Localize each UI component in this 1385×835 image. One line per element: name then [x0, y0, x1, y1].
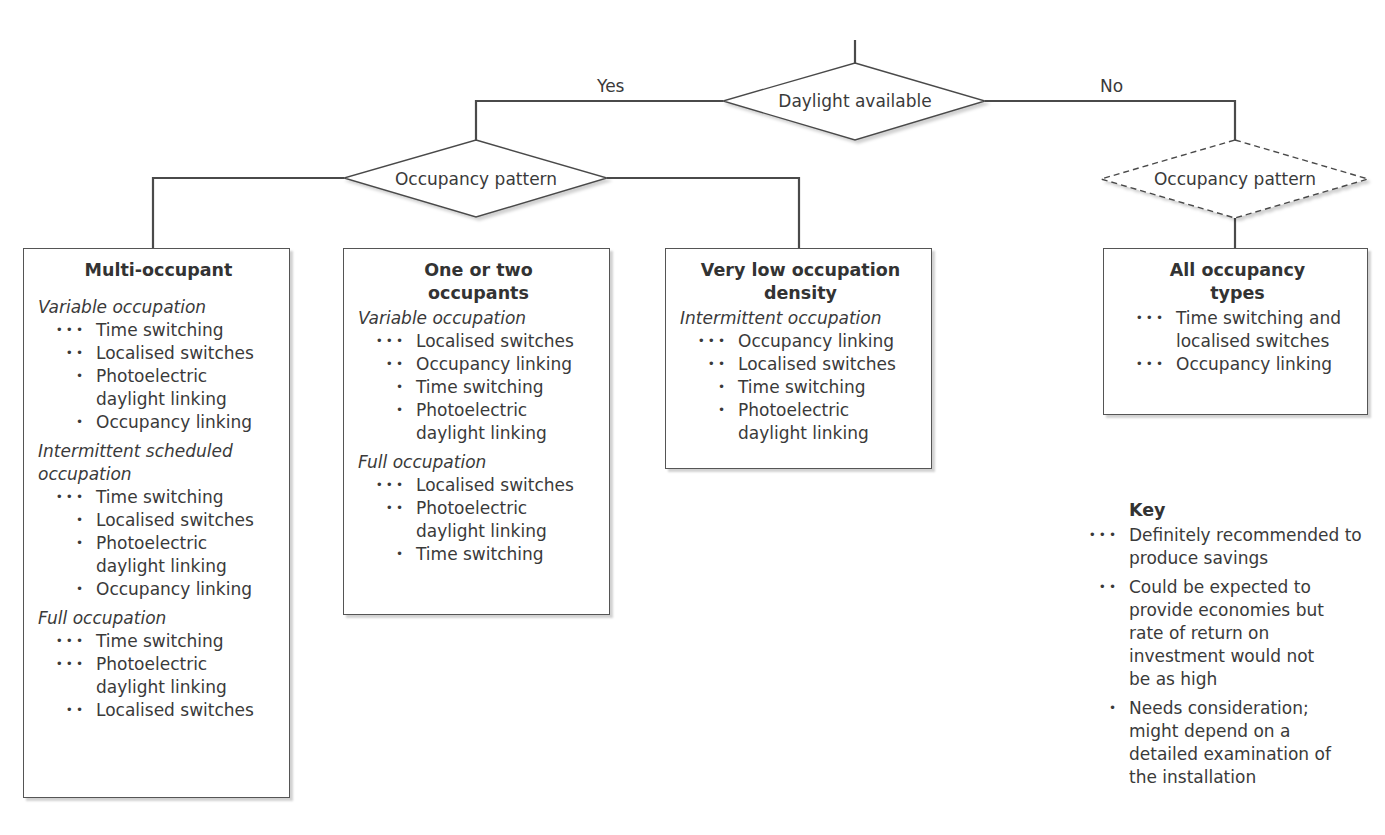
no-branch-label: No — [1100, 76, 1123, 96]
list-item: ••Localised switches — [680, 353, 921, 376]
list-item: •••Localised switches — [358, 474, 599, 497]
rating-dots-icon: •• — [38, 699, 96, 722]
list-item: •••Time switching — [38, 319, 279, 342]
list-item: ••Localised switches — [38, 342, 279, 365]
rating-dots-icon: ••• — [358, 474, 416, 497]
list-item: ••Occupancy linking — [358, 353, 599, 376]
rating-dots-icon: •• — [38, 342, 96, 365]
box-multi-occupant: Multi-occupant Variable occupation •••Ti… — [23, 248, 290, 798]
list-item: ••Photoelectric daylight linking — [358, 497, 599, 543]
list-item: •••Photoelectric daylight linking — [38, 653, 279, 699]
box-title: Very low occupation density — [680, 259, 921, 305]
list-item: •Photoelectric daylight linking — [38, 365, 279, 411]
rating-dots-icon: • — [38, 509, 96, 532]
section-title: Intermittent scheduled occupation — [38, 440, 279, 486]
rating-dots-icon: ••• — [358, 330, 416, 353]
rating-dots-icon: ••• — [38, 486, 96, 509]
list-item: •••Time switching and localised switches — [1118, 307, 1357, 353]
box-very-low-occupation-density: Very low occupation density Intermittent… — [665, 248, 932, 469]
rating-dots-icon: ••• — [38, 653, 96, 699]
list-item: •••Occupancy linking — [680, 330, 921, 353]
box-all-occupancy-types: All occupancy types •••Time switching an… — [1103, 248, 1368, 415]
box-title: All occupancy types — [1118, 259, 1357, 305]
list-item: •Photoelectric daylight linking — [680, 399, 921, 445]
section-title: Full occupation — [358, 451, 599, 474]
list-item: •Time switching — [358, 543, 599, 566]
rating-dots-icon: • — [358, 376, 416, 399]
section-title: Variable occupation — [358, 307, 599, 330]
list-item: •Occupancy linking — [38, 411, 279, 434]
list-item: •Photoelectric daylight linking — [38, 532, 279, 578]
section-title: Intermittent occupation — [680, 307, 921, 330]
rating-dots-icon: ••• — [1118, 307, 1176, 353]
rating-dots-icon: ••• — [1118, 353, 1176, 376]
yes-branch-label: Yes — [597, 76, 624, 96]
list-item: ••Localised switches — [38, 699, 279, 722]
rating-dots-icon: • — [358, 399, 416, 445]
one-dot-icon: • — [1063, 697, 1129, 789]
box-title: Multi-occupant — [38, 259, 279, 282]
rating-dots-icon: •• — [358, 353, 416, 376]
two-dots-icon: •• — [1063, 576, 1129, 691]
rating-dots-icon: • — [680, 399, 738, 445]
legend-title: Key — [1063, 498, 1373, 522]
list-item: •••Time switching — [38, 486, 279, 509]
box-one-or-two-occupants: One or two occupants Variable occupation… — [343, 248, 610, 615]
rating-dots-icon: • — [38, 578, 96, 601]
list-item: •Localised switches — [38, 509, 279, 532]
occupancy-pattern-right-label: Occupancy pattern — [1154, 169, 1316, 189]
rating-dots-icon: • — [358, 543, 416, 566]
legend-item: ••Could be expected to provide economies… — [1063, 576, 1373, 691]
rating-dots-icon: • — [38, 411, 96, 434]
rating-dots-icon: ••• — [38, 630, 96, 653]
list-item: •••Occupancy linking — [1118, 353, 1357, 376]
list-item: •Time switching — [680, 376, 921, 399]
legend-item: •••Definitely recommended to produce sav… — [1063, 524, 1373, 570]
rating-dots-icon: ••• — [680, 330, 738, 353]
rating-dots-icon: •• — [680, 353, 738, 376]
rating-dots-icon: ••• — [38, 319, 96, 342]
list-item: •••Time switching — [38, 630, 279, 653]
rating-dots-icon: • — [680, 376, 738, 399]
section-title: Variable occupation — [38, 296, 279, 319]
list-item: •Time switching — [358, 376, 599, 399]
section-title: Full occupation — [38, 607, 279, 630]
list-item: •Photoelectric daylight linking — [358, 399, 599, 445]
list-item: •Occupancy linking — [38, 578, 279, 601]
three-dots-icon: ••• — [1063, 524, 1129, 570]
rating-dots-icon: • — [38, 532, 96, 578]
legend: Key •••Definitely recommended to produce… — [1063, 498, 1373, 795]
occupancy-pattern-left-label: Occupancy pattern — [395, 169, 557, 189]
rating-dots-icon: •• — [358, 497, 416, 543]
box-title: One or two occupants — [358, 259, 599, 305]
daylight-available-label: Daylight available — [778, 91, 931, 111]
list-item: •••Localised switches — [358, 330, 599, 353]
legend-item: •Needs consideration; might depend on a … — [1063, 697, 1373, 789]
rating-dots-icon: • — [38, 365, 96, 411]
